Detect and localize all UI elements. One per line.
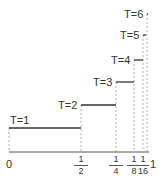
step-label-t2: T=2 [58, 100, 77, 111]
step-label-t6: T=6 [124, 9, 143, 20]
tick-quarter: 1 4 [109, 155, 123, 176]
step-label-t5: T=5 [120, 30, 139, 41]
step-label-t4: T=4 [111, 55, 130, 66]
axis-one-label: 1 [150, 159, 156, 170]
axis-zero-label: 0 [6, 159, 12, 170]
tick-half: 1 2 [74, 155, 88, 176]
step-label-t3: T=3 [93, 77, 112, 88]
step-label-t1: T=1 [10, 115, 29, 126]
tick-sixteenth: 1 16 [137, 155, 149, 176]
